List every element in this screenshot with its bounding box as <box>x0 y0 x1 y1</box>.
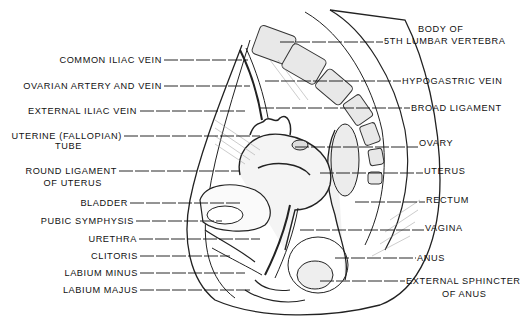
right-label: ANUS <box>417 253 445 264</box>
right-label: EXTERNAL SPHINCTER <box>406 276 521 287</box>
ovary <box>292 140 308 150</box>
left-label: OVARIAN ARTERY AND VEIN <box>0 81 162 92</box>
anus <box>297 261 333 289</box>
right-label: VAGINA <box>425 223 463 234</box>
right-label: OF ANUS <box>442 289 487 300</box>
right-label: BROAD LIGAMENT <box>411 103 502 114</box>
left-label: EXTERNAL ILIAC VEIN <box>0 106 137 117</box>
right-label: UTERUS <box>424 166 465 177</box>
left-label: PUBIC SYMPHYSIS <box>0 216 134 227</box>
left-label: URETHRA <box>0 234 137 245</box>
left-label: COMMON ILIAC VEIN <box>0 55 162 66</box>
left-label: BLADDER <box>0 198 128 209</box>
fallopian-tube <box>250 116 291 135</box>
left-label: ROUND LIGAMENT <box>0 166 117 177</box>
right-label: BODY OF <box>418 24 463 35</box>
left-label: LABIUM MINUS <box>0 268 138 279</box>
right-label: RECTUM <box>426 195 469 206</box>
left-label: TUBE <box>52 141 82 152</box>
left-label: CLITORIS <box>0 251 138 262</box>
right-label: 5TH LUMBAR VERTEBRA <box>384 36 506 47</box>
left-label: LABIUM MAJUS <box>0 285 138 296</box>
right-label: OVARY <box>419 138 453 149</box>
right-label: HYPOGASTRIC VEIN <box>402 76 502 87</box>
left-label: OF UTERUS <box>42 178 102 189</box>
